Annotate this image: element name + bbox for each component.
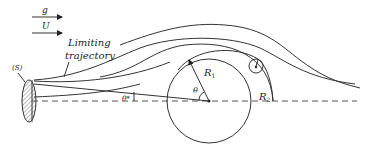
source-label: (S) (12, 64, 23, 72)
streamline-outer (120, 24, 360, 88)
theta-label: θ (193, 86, 198, 95)
limiting-trajectory-label-2: trajectory (65, 50, 115, 61)
limiting-trajectory (34, 62, 170, 82)
velocity-label: U (42, 21, 50, 31)
limiting-trajectory-label-1: Limiting (67, 37, 111, 48)
flow-diagram: g U Limiting trajectory (S) θ* R1 θ R2 (0, 0, 369, 151)
R2-label: R2 (258, 91, 271, 103)
theta-star-label: θ* (122, 95, 130, 103)
R1-label: R1 (203, 67, 215, 79)
source-pointer (18, 73, 25, 82)
particle-centre (255, 66, 257, 68)
gravity-label: g (42, 5, 48, 15)
